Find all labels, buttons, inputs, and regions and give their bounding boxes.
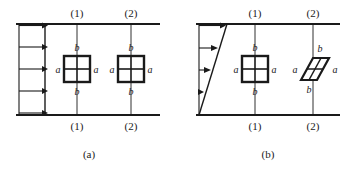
panel-a-section-1-top-label: (1) [71,7,84,20]
panel-b-element-1-label-top: b [253,42,258,53]
panel-a-velocity-arrow-3 [19,66,48,72]
panel-b-element-1-label-bottom: b [253,86,258,97]
panel-a-section-2-top-label: (2) [125,7,138,20]
panel-b-section-1-bottom-label: (1) [249,120,262,133]
panel-b-section-2-top-label: (2) [307,7,320,20]
panel-b-velocity-arrow-3 [199,67,211,73]
panel-b-element-2-label-left: a [293,64,298,75]
panel-b: (1) (1) (2) (2) b b a a b b a a (b) [196,7,340,161]
panel-b-section-2-bottom-label: (2) [307,120,320,133]
panel-a-velocity-arrows [19,22,48,116]
panel-a-caption: (a) [83,148,96,161]
panel-a-element-1-label-right: a [94,64,99,75]
panel-a-velocity-arrow-2 [19,44,48,50]
panel-a-section-2-bottom-label: (2) [125,120,138,133]
figure-container: (1) (1) (2) (2) b b a a b b a a (a) [0,0,355,171]
panel-a-element-2-label-top: b [129,42,134,53]
panel-b-caption: (b) [262,148,275,161]
panel-a-velocity-arrow-4 [19,88,48,94]
flow-deformation-diagram: (1) (1) (2) (2) b b a a b b a a (a) [0,0,355,171]
panel-b-element-2-label-right: a [333,64,338,75]
panel-b-element-1: b b a a [234,42,277,97]
panel-b-element-1-label-left: a [234,64,239,75]
panel-b-velocity-arrow-4 [198,89,204,95]
panel-a-element-1: b b a a [56,42,99,97]
panel-a: (1) (1) (2) (2) b b a a b b a a (a) [16,7,160,161]
panel-a-element-1-label-left: a [56,64,61,75]
panel-a-element-1-label-top: b [75,42,80,53]
panel-b-element-2-label-bottom: b [307,84,312,95]
panel-b-element-2: b b a a [293,43,338,95]
panel-b-element-1-label-right: a [272,64,277,75]
panel-a-element-2-label-right: a [148,64,153,75]
panel-a-section-1-bottom-label: (1) [71,120,84,133]
panel-b-velocity-arrows [198,22,226,95]
panel-a-element-2: b b a a [110,42,153,97]
panel-a-element-2-label-left: a [110,64,115,75]
panel-b-element-2-label-top: b [318,43,323,54]
panel-b-section-1-top-label: (1) [249,7,262,20]
panel-a-element-2-label-bottom: b [129,86,134,97]
panel-a-element-1-label-bottom: b [75,86,80,97]
panel-b-velocity-arrow-2 [199,45,218,51]
